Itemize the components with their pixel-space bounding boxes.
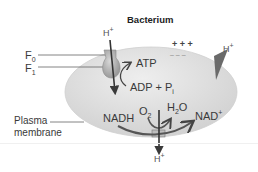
- proton-right-label: H+: [223, 45, 234, 54]
- baseline-divider: [0, 143, 258, 144]
- adp-pi-base: ADP + P: [130, 81, 172, 93]
- f1-label: F1: [25, 63, 36, 74]
- f1-label-base: F: [25, 62, 32, 74]
- plasma-membrane-label-line1: Plasma: [14, 116, 47, 126]
- nad-plus-label: NAD+: [195, 111, 222, 122]
- f0-label: F0: [25, 50, 36, 61]
- water-label: H2O: [167, 102, 187, 113]
- oxygen-label: O2: [139, 106, 151, 117]
- atp-label: ATP: [136, 58, 157, 69]
- f1-label-sub: 1: [32, 69, 36, 76]
- water-tail: O: [179, 101, 188, 113]
- f0-label-base: F: [25, 49, 32, 61]
- water-base: H: [167, 101, 175, 113]
- proton-right-sup: +: [230, 42, 234, 49]
- plasma-membrane-label-line2: membrane: [14, 128, 62, 138]
- oxygen-base: O: [139, 105, 148, 117]
- adp-pi-label: ADP + Pi: [130, 82, 174, 93]
- oxygen-sub: 2: [148, 112, 152, 119]
- nadh-label: NADH: [103, 113, 134, 124]
- proton-top-label: H+: [103, 29, 114, 38]
- adp-pi-sub: i: [172, 88, 174, 95]
- diagram-title: Bacterium: [127, 14, 173, 25]
- proton-bottom-label: H+: [154, 155, 165, 164]
- nad-plus-base: NAD: [195, 110, 218, 122]
- nad-plus-sup: +: [218, 109, 222, 116]
- proton-bottom-sup: +: [161, 152, 165, 159]
- bacterium-diagram-svg: [0, 0, 258, 172]
- positive-charges-label: + + +: [172, 40, 193, 49]
- negative-charges-label: – – –: [170, 51, 186, 58]
- proton-top-sup: +: [110, 26, 114, 33]
